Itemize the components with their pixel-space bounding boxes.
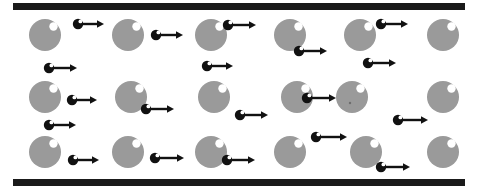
large-particle: [29, 19, 61, 51]
large-particle-highlight: [447, 84, 455, 92]
small-particle-highlight: [157, 31, 161, 35]
small-particle-highlight: [308, 94, 312, 98]
small-particle-highlight: [73, 96, 77, 100]
large-particle-highlight: [215, 139, 223, 147]
small-particle-highlight: [229, 21, 233, 25]
figure-canvas: [0, 0, 477, 191]
small-particle-highlight: [50, 64, 54, 68]
large-particle-highlight: [294, 139, 302, 147]
large-particle-highlight: [49, 139, 57, 147]
large-particle: [350, 136, 382, 168]
large-particle-highlight: [49, 22, 57, 30]
small-particle-highlight: [369, 59, 373, 63]
large-particle-highlight: [364, 22, 372, 30]
large-particle: [274, 19, 306, 51]
large-particle: [195, 19, 227, 51]
small-particle-highlight: [228, 156, 232, 160]
small-particle-highlight: [300, 47, 304, 51]
small-particle-highlight: [382, 163, 386, 167]
large-particle-speck: [349, 102, 351, 104]
large-particle-highlight: [447, 139, 455, 147]
large-particle-highlight: [301, 84, 309, 92]
bottom-plate: [13, 179, 465, 186]
large-particle-highlight: [215, 22, 223, 30]
small-particle-highlight: [317, 133, 321, 137]
large-particle: [336, 81, 368, 113]
large-particle-highlight: [49, 84, 57, 92]
large-particle: [274, 136, 306, 168]
small-particle-highlight: [79, 20, 83, 24]
small-particle-highlight: [50, 121, 54, 125]
large-particle: [112, 136, 144, 168]
large-particle: [195, 136, 227, 168]
small-particle-highlight: [147, 105, 151, 109]
large-particle: [427, 81, 459, 113]
large-particle: [344, 19, 376, 51]
particle-flow-figure: [0, 0, 477, 191]
large-particle-highlight: [132, 22, 140, 30]
small-particle-highlight: [208, 62, 212, 66]
large-particle-highlight: [135, 84, 143, 92]
small-particle-highlight: [74, 156, 78, 160]
small-particle-highlight: [241, 111, 245, 115]
large-particle-highlight: [447, 22, 455, 30]
large-particle-highlight: [132, 139, 140, 147]
large-particle: [198, 81, 230, 113]
small-particle-highlight: [382, 20, 386, 24]
figure-stage: [0, 0, 477, 191]
large-particle-highlight: [370, 139, 378, 147]
large-particle: [29, 136, 61, 168]
large-particle: [29, 81, 61, 113]
large-particle: [427, 136, 459, 168]
large-particle: [112, 19, 144, 51]
large-particle-highlight: [294, 22, 302, 30]
small-particle-highlight: [399, 116, 403, 120]
large-particle-highlight: [356, 84, 364, 92]
top-plate: [13, 3, 465, 10]
large-particle: [427, 19, 459, 51]
large-particle-highlight: [218, 84, 226, 92]
small-particle-highlight: [156, 154, 160, 158]
